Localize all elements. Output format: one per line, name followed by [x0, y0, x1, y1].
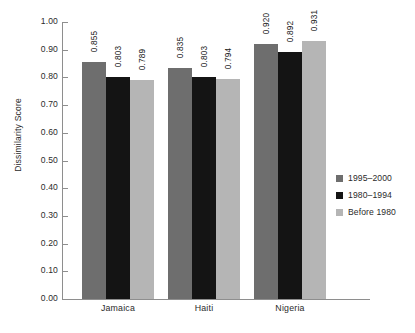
plot-area: 0.8550.8030.7890.8350.8030.7940.9200.892…: [62, 22, 370, 299]
x-axis-category-label: Nigeria: [230, 303, 350, 313]
y-axis-tick-label: 0.10: [24, 265, 58, 275]
y-axis-tick-label: 0.90: [24, 44, 58, 54]
legend-swatch-icon: [336, 192, 343, 199]
y-axis-tick-label: 0.00: [24, 293, 58, 303]
bar-value-label: 0.835: [176, 36, 185, 58]
legend-item[interactable]: Before 1980: [336, 207, 396, 217]
bar-group: 0.8350.8030.794: [168, 22, 240, 299]
bar[interactable]: 0.835: [168, 68, 192, 299]
legend-label: 1980–1994: [348, 190, 392, 200]
legend-label: Before 1980: [348, 207, 396, 217]
y-axis-tick-label: 0.60: [24, 127, 58, 137]
bar-value-label: 0.789: [138, 49, 147, 71]
bar-value-label: 0.855: [90, 31, 99, 53]
y-axis-tick-label: 0.80: [24, 71, 58, 81]
x-axis-line: [62, 299, 370, 300]
y-axis-tick-label: 0.30: [24, 210, 58, 220]
y-axis-tick-label: 0.70: [24, 99, 58, 109]
bar[interactable]: 0.892: [278, 52, 302, 299]
bar[interactable]: 0.803: [106, 77, 130, 299]
legend-swatch-icon: [336, 209, 343, 216]
legend-swatch-icon: [336, 175, 343, 182]
legend-item[interactable]: 1995–2000: [336, 173, 396, 183]
bar-value-label: 0.803: [200, 45, 209, 67]
bar[interactable]: 0.931: [302, 41, 326, 299]
bar-group: 0.9200.8920.931: [254, 22, 326, 299]
bar[interactable]: 0.789: [130, 80, 154, 299]
bar-value-label: 0.892: [286, 21, 295, 43]
bar-group: 0.8550.8030.789: [82, 22, 154, 299]
bar[interactable]: 0.920: [254, 44, 278, 299]
bar[interactable]: 0.794: [216, 79, 240, 299]
y-axis-tick-label: 1.00: [24, 16, 58, 26]
bar-value-label: 0.803: [114, 45, 123, 67]
legend-item[interactable]: 1980–1994: [336, 190, 396, 200]
y-axis-tick-label: 0.50: [24, 155, 58, 165]
bar[interactable]: 0.855: [82, 62, 106, 299]
bar-value-label: 0.931: [310, 10, 319, 32]
bar-value-label: 0.794: [224, 48, 233, 70]
bar[interactable]: 0.803: [192, 77, 216, 299]
legend-label: 1995–2000: [348, 173, 392, 183]
legend: 1995–20001980–1994Before 1980: [336, 173, 396, 224]
bar-value-label: 0.920: [262, 13, 271, 35]
y-axis-tick-label: 0.40: [24, 182, 58, 192]
y-axis-tick-label: 0.20: [24, 238, 58, 248]
bar-chart: Dissimilarity Score 1.000.900.800.700.60…: [0, 0, 415, 333]
y-axis-title: Dissimilarity Score: [13, 65, 23, 205]
